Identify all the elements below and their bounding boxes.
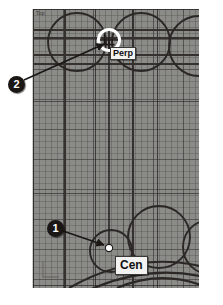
- snap-tooltip-cen: Cen: [115, 256, 148, 275]
- cen-snap-marker: [105, 244, 112, 251]
- callout-marker-2[interactable]: 2: [8, 76, 25, 93]
- top-circle-group: [48, 13, 199, 76]
- ucs-l-icon: [43, 261, 59, 277]
- screenshot-root: Top Perp Cen 2 1: [0, 0, 223, 305]
- snap-tooltip-perp: Perp: [110, 47, 136, 60]
- callout-marker-1[interactable]: 1: [47, 220, 64, 237]
- viewport-corner-label: Top: [36, 10, 45, 17]
